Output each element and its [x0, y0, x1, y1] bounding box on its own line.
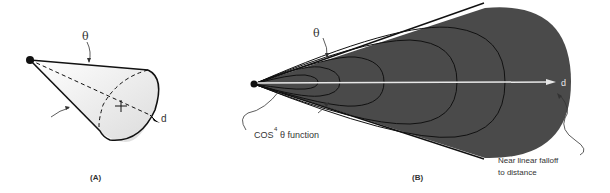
cos4-theta-label: COS 4 θ function [254, 126, 319, 140]
cos-label-prefix: COS [254, 130, 274, 140]
diagram-canvas: θ d (A) θ d COS 4 θ function Near linear… [0, 0, 610, 193]
panel-a-axis-label: d [161, 113, 167, 124]
panel-a-theta-label: θ [82, 30, 89, 43]
panel-b-caption: (B) [412, 173, 423, 182]
cos-label-suffix: θ function [280, 130, 319, 140]
falloff-label-line1: Near linear falloff [498, 156, 559, 165]
cos-label-exponent: 4 [274, 126, 278, 132]
falloff-label-line2: to distance [498, 168, 537, 177]
panel-b-axis-label: d [561, 78, 566, 88]
panel-a-cone [26, 42, 160, 142]
panel-b-theta-label: θ [313, 27, 320, 40]
panel-a-caption: (A) [90, 173, 101, 182]
